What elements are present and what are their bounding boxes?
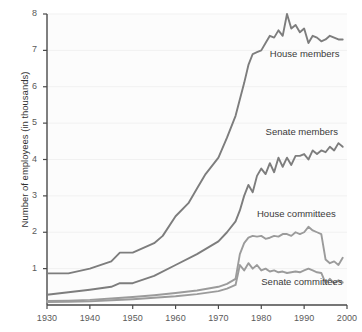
series-annotation-label: House members [270,48,340,59]
series-annotation-label: House committees [257,208,336,219]
x-axis-tick-label: 1990 [284,313,324,323]
y-axis-tick-label: 8 [17,8,37,18]
y-axis-tick-label: 6 [17,81,37,91]
y-axis-tick-label: 4 [17,154,37,164]
y-axis-tick-label: 1 [17,263,37,273]
y-axis-tick-label: 7 [17,44,37,54]
x-axis-tick-label: 1970 [198,313,238,323]
y-axis-tick-label: 2 [17,226,37,236]
y-axis-tick-label: 3 [17,190,37,200]
x-axis-tick-label: 1960 [156,313,196,323]
x-axis-tick-label: 1940 [70,313,110,323]
x-axis-tick-label: 1980 [241,313,281,323]
x-axis-tick-label: 2000 [327,313,362,323]
x-axis-tick-label: 1930 [27,313,67,323]
x-axis-tick-label: 1950 [113,313,153,323]
series-annotation-label: Senate committees [261,276,342,287]
y-axis-tick-label: 5 [17,117,37,127]
series-annotation-label: Senate members [266,126,338,137]
